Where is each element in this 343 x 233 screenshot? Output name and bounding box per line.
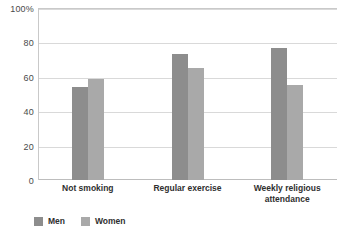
y-tick-label-20: 20 bbox=[24, 142, 34, 152]
bar-group-weekly-religious-attendance bbox=[237, 8, 337, 180]
x-label-weekly-religious-attendance: Weekly religious attendance bbox=[237, 183, 337, 204]
legend-swatch-women-icon bbox=[81, 217, 90, 226]
bar-women-not-smoking[interactable] bbox=[88, 79, 104, 180]
legend-item-men[interactable]: Men bbox=[34, 216, 65, 226]
bar-chart: 100% 80 60 40 20 0 Not smoking Regular e… bbox=[0, 0, 343, 233]
y-tick-label-0: 0 bbox=[29, 176, 34, 186]
x-label-line2: attendance bbox=[237, 194, 337, 205]
x-label-line1: Regular exercise bbox=[153, 183, 221, 193]
x-label-not-smoking: Not smoking bbox=[38, 183, 138, 204]
x-label-line1: Not smoking bbox=[62, 183, 113, 193]
bar-men-not-smoking[interactable] bbox=[72, 87, 88, 180]
bar-group-regular-exercise bbox=[138, 8, 238, 180]
bar-women-weekly-religious-attendance[interactable] bbox=[287, 85, 303, 180]
x-label-line1: Weekly religious bbox=[254, 183, 321, 193]
x-label-regular-exercise: Regular exercise bbox=[138, 183, 238, 204]
bar-men-regular-exercise[interactable] bbox=[172, 54, 188, 180]
legend-label-women: Women bbox=[95, 216, 126, 226]
legend: Men Women bbox=[34, 216, 126, 226]
bar-group-not-smoking bbox=[38, 8, 138, 180]
x-axis-labels: Not smoking Regular exercise Weekly reli… bbox=[38, 183, 337, 204]
y-tick-label-80: 80 bbox=[24, 38, 34, 48]
legend-swatch-men-icon bbox=[34, 217, 43, 226]
bar-groups bbox=[38, 8, 337, 180]
bar-men-weekly-religious-attendance[interactable] bbox=[271, 48, 287, 180]
bar-women-regular-exercise[interactable] bbox=[188, 68, 204, 180]
y-tick-label-100: 100% bbox=[10, 4, 34, 14]
y-tick-label-60: 60 bbox=[24, 73, 34, 83]
y-tick-label-40: 40 bbox=[24, 107, 34, 117]
legend-item-women[interactable]: Women bbox=[81, 216, 126, 226]
legend-label-men: Men bbox=[48, 216, 65, 226]
